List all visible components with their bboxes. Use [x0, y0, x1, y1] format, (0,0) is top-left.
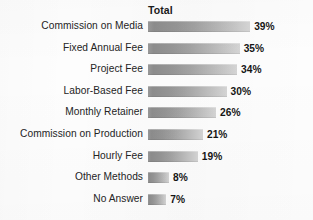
bar-and-value: 7% — [148, 194, 185, 205]
bar-category-label: Hourly Fee — [93, 150, 143, 162]
bar-category-label: Monthly Retainer — [65, 106, 143, 118]
bar-row: Hourly Fee19% — [0, 149, 313, 171]
column-header-total: Total — [148, 4, 173, 16]
bar-value-label: 7% — [170, 194, 185, 205]
bar-rows: Commission on Media39%Fixed Annual Fee35… — [0, 19, 313, 213]
bar-and-value: 39% — [148, 21, 275, 32]
bar — [148, 172, 169, 183]
bar — [148, 194, 166, 205]
bar-value-label: 30% — [231, 86, 251, 97]
bar — [148, 107, 216, 118]
bar-value-label: 21% — [207, 129, 227, 140]
bar-value-label: 26% — [220, 107, 240, 118]
bar-and-value: 30% — [148, 86, 251, 97]
bar-and-value: 8% — [148, 172, 188, 183]
bar — [148, 151, 198, 162]
bar-row: Monthly Retainer26% — [0, 105, 313, 127]
bar-chart: Total Commission on Media39%Fixed Annual… — [0, 0, 313, 220]
bar-category-label: Fixed Annual Fee — [63, 42, 143, 54]
bar-value-label: 39% — [254, 21, 274, 32]
bar-category-label: Project Fee — [90, 63, 143, 75]
bar — [148, 21, 250, 32]
bar-row: Other Methods8% — [0, 170, 313, 192]
bar-category-label: No Answer — [93, 193, 143, 205]
bar-value-label: 34% — [241, 64, 261, 75]
bar-category-label: Commission on Production — [20, 128, 143, 140]
bar-row: Commission on Production21% — [0, 127, 313, 149]
bar — [148, 129, 203, 140]
bar-and-value: 35% — [148, 43, 264, 54]
bar-and-value: 34% — [148, 64, 261, 75]
bar-and-value: 21% — [148, 129, 227, 140]
bar — [148, 43, 240, 54]
bar-category-label: Commission on Media — [41, 20, 143, 32]
bar-and-value: 26% — [148, 107, 240, 118]
bar-category-label: Labor-Based Fee — [64, 85, 143, 97]
bar-row: Labor-Based Fee30% — [0, 84, 313, 106]
bar-row: No Answer7% — [0, 192, 313, 214]
bar-category-label: Other Methods — [75, 171, 143, 183]
bar-value-label: 19% — [202, 151, 222, 162]
bar-value-label: 35% — [244, 43, 264, 54]
bar — [148, 86, 227, 97]
bar-row: Fixed Annual Fee35% — [0, 41, 313, 63]
bar — [148, 64, 237, 75]
bar-row: Project Fee34% — [0, 62, 313, 84]
bar-and-value: 19% — [148, 151, 222, 162]
bar-value-label: 8% — [173, 172, 188, 183]
bar-row: Commission on Media39% — [0, 19, 313, 41]
